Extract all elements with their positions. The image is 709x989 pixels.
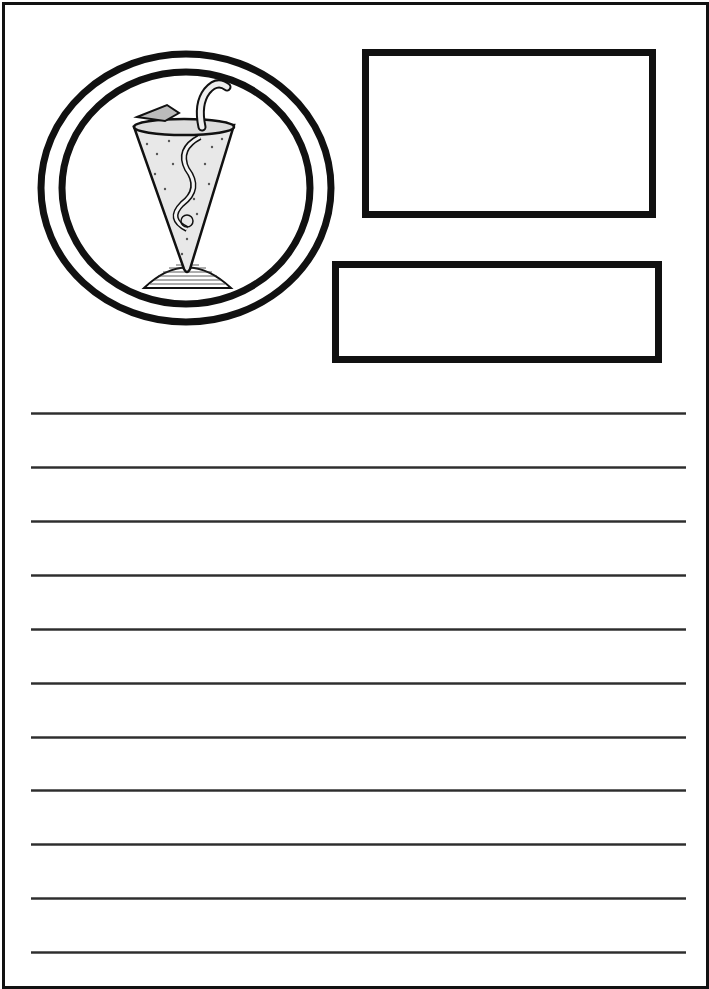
writing-line[interactable] bbox=[31, 466, 686, 469]
writing-line[interactable] bbox=[31, 843, 686, 846]
writing-line[interactable] bbox=[31, 574, 686, 577]
writing-line[interactable] bbox=[31, 789, 686, 792]
title-box[interactable] bbox=[362, 49, 656, 218]
subtitle-box[interactable] bbox=[332, 261, 662, 363]
writing-line[interactable] bbox=[31, 412, 686, 415]
writing-line[interactable] bbox=[31, 736, 686, 739]
writing-line[interactable] bbox=[31, 897, 686, 900]
writing-line[interactable] bbox=[31, 682, 686, 685]
writing-line[interactable] bbox=[31, 951, 686, 954]
writing-line[interactable] bbox=[31, 520, 686, 523]
emblem bbox=[37, 49, 335, 327]
goblet-with-serpent-icon bbox=[134, 84, 234, 288]
writing-line[interactable] bbox=[31, 628, 686, 631]
